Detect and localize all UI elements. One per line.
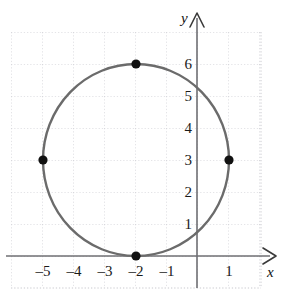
y-tick-label-4: 4 bbox=[160, 121, 192, 136]
y-axis-label: y bbox=[181, 11, 188, 26]
x-axis-label: x bbox=[267, 265, 274, 280]
x-tick-label-neg2: –2 bbox=[129, 264, 144, 279]
y-tick-label-5: 5 bbox=[160, 89, 192, 104]
point-bottom bbox=[131, 251, 140, 260]
point-right bbox=[224, 155, 233, 164]
y-tick-label-6: 6 bbox=[160, 57, 192, 72]
y-tick-label-3: 3 bbox=[160, 153, 192, 168]
x-tick-label-pos1: 1 bbox=[225, 264, 233, 279]
x-tick-label-neg1: –1 bbox=[160, 264, 175, 279]
y-tick-label-2: 2 bbox=[160, 185, 192, 200]
x-tick-label-neg5: –5 bbox=[36, 264, 51, 279]
point-left bbox=[38, 155, 47, 164]
y-tick-label-1: 1 bbox=[160, 217, 192, 232]
grid-lines bbox=[11, 32, 261, 288]
coordinate-plane-svg bbox=[0, 0, 283, 307]
point-top bbox=[131, 59, 140, 68]
x-tick-label-neg4: –4 bbox=[67, 264, 82, 279]
x-tick-label-neg3: –3 bbox=[98, 264, 113, 279]
graph-figure: –5 –4 –3 –2 –1 1 1 2 3 4 5 6 y x bbox=[0, 0, 283, 307]
